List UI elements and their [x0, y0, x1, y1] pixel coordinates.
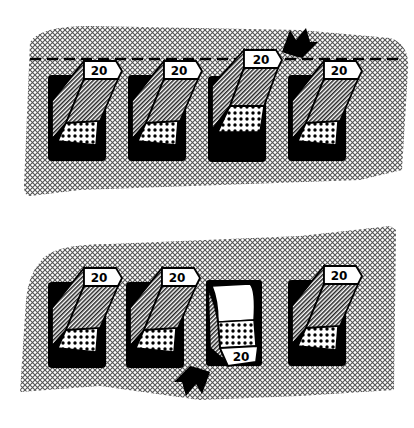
breaker-label: 20	[331, 64, 348, 78]
breaker-label: 20	[91, 64, 108, 78]
bottom-panel: 20 20 20 20	[20, 226, 396, 400]
breaker-3-off: 20	[206, 280, 262, 366]
breaker-label: 20	[171, 64, 188, 78]
breaker-illustration: 20 20 20 20 20 20	[0, 0, 414, 428]
breaker-label: 20	[331, 269, 348, 283]
top-panel: 20 20 20 20	[24, 26, 408, 196]
breaker-label: 20	[169, 271, 186, 285]
breaker-label: 20	[253, 53, 270, 67]
breaker-label: 20	[91, 271, 108, 285]
breaker-label: 20	[233, 350, 250, 364]
